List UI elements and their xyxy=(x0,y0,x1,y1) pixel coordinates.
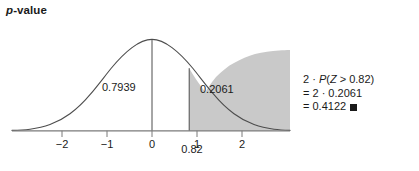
equation-line-1-rest: > 0.82) xyxy=(337,73,375,85)
p-value-calculation: 2 · P(Z > 0.82) = 2 · 0.2061 = 0.4122 xyxy=(303,73,374,114)
left-area-probability-label: 0.7939 xyxy=(102,81,136,93)
right-tail-probability-label: 0.2061 xyxy=(200,83,234,95)
page-title-rest: -value xyxy=(13,4,47,16)
page-title: p-value xyxy=(6,4,47,16)
normal-distribution-chart: −2 −1 0 1 2 0.82 0.7939 0.2061 xyxy=(0,18,300,171)
cutoff-value-label: 0.82 xyxy=(177,143,207,155)
equation-line-2: = 2 · 0.2061 xyxy=(303,87,374,101)
x-tick-label--1: −1 xyxy=(92,138,122,150)
end-of-proof-square-icon xyxy=(350,104,357,111)
x-tick-label-0: 0 xyxy=(137,138,167,150)
equation-line-3-wrapper: = 0.4122 xyxy=(303,100,374,114)
equation-line-1-prefix: 2 · xyxy=(303,73,319,85)
x-tick-label-2: 2 xyxy=(227,138,257,150)
equation-symbol-z: Z xyxy=(330,73,337,85)
equation-line-3: = 0.4122 xyxy=(303,100,346,112)
equation-line-1: 2 · P(Z > 0.82) xyxy=(303,73,374,87)
x-tick-label--2: −2 xyxy=(47,138,77,150)
